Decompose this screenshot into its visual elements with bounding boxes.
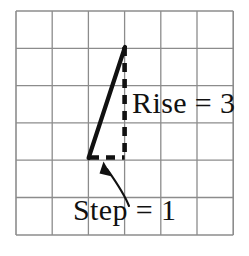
step-label: Step = 1 (73, 195, 176, 225)
rise-label: Rise = 3 (132, 88, 235, 118)
slope-diagram: Rise = 3 Step = 1 (0, 0, 249, 256)
slope-line (89, 47, 125, 158)
